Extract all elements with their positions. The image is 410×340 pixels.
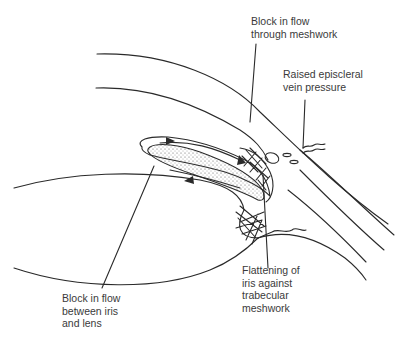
label-line: meshwork [242,302,300,315]
collector-channel-1 [283,153,291,156]
return-flow-arrow [184,176,194,184]
leader-iris-lens [102,166,154,288]
label-iris-lens-block: Block in flow between iris and lens [62,292,120,330]
label-line: between iris [62,305,120,318]
eye-angle-diagram [0,0,410,340]
label-line: Raised episcleral [283,68,363,81]
label-meshwork-block: Block in flow through meshwork [251,15,337,40]
label-line: iris against [242,277,300,290]
schlemm-canal [264,151,281,165]
leader-episcleral [303,100,305,148]
label-episcleral-pressure: Raised episcleral vein pressure [283,68,363,93]
label-line: Flattening of [242,264,300,277]
leader-meshwork [250,44,256,122]
label-line: Block in flow [251,15,337,28]
lens-posterior-curve [14,238,258,285]
sclera-outer-curve [300,150,394,235]
collector-channel-2 [290,160,298,163]
ciliary-hatching [236,206,306,244]
episcleral-vein-wave-2 [303,149,325,153]
episcleral-vein-wave-1 [303,144,325,148]
iris-stippled-body [148,145,264,201]
label-line: trabecular [242,289,300,302]
label-line: through meshwork [251,28,337,41]
label-line: vein pressure [283,81,363,94]
label-iris-flattening: Flattening of iris against trabecular me… [242,264,300,314]
sclera-inner-line [288,190,366,262]
diagram-canvas: Block in flow through meshwork Raised ep… [0,0,410,340]
label-line: and lens [62,317,120,330]
label-line: Block in flow [62,292,120,305]
forward-flow-arrow-top [166,137,175,145]
